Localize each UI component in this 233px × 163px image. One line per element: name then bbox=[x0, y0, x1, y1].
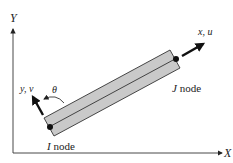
bar-element-diagram: Y X x, u y, v θ J node I node bbox=[0, 0, 233, 163]
i-node-label: I node bbox=[46, 140, 75, 152]
local-x-arrow bbox=[182, 44, 203, 56]
bar-centerline bbox=[49, 59, 175, 127]
i-node-point bbox=[47, 124, 53, 130]
global-y-label: Y bbox=[10, 11, 18, 25]
local-y-arrow bbox=[33, 97, 43, 115]
global-x-label: X bbox=[223, 146, 232, 160]
bar-element bbox=[44, 50, 180, 136]
j-node-point bbox=[173, 56, 179, 62]
angle-theta-label: θ bbox=[52, 84, 57, 95]
i-node-suffix: node bbox=[51, 140, 75, 152]
local-y-label: y, v bbox=[19, 83, 34, 94]
j-node-suffix: node bbox=[177, 82, 201, 94]
local-x-label: x, u bbox=[197, 26, 212, 37]
angle-arc bbox=[44, 97, 64, 103]
j-node-label: J node bbox=[172, 82, 201, 94]
